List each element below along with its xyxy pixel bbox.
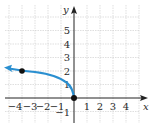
x-tick: 1: [84, 101, 90, 112]
point-origin: [71, 95, 77, 101]
y-axis-label: y: [62, 4, 69, 15]
y-tick: 5: [64, 25, 70, 36]
x-tick: −2: [36, 101, 51, 112]
chart: x y −4 −3 −2 −1 1 2 3 4 5 4 3 2 1 −1: [0, 0, 150, 127]
x-tick: 2: [97, 101, 103, 112]
y-tick: 4: [64, 39, 70, 50]
point-neg4-2: [19, 68, 25, 74]
y-tick: 2: [64, 66, 70, 77]
y-tick: −1: [55, 107, 70, 118]
x-tick: −4: [8, 101, 23, 112]
x-tick: 4: [123, 101, 129, 112]
x-axis-label: x: [143, 101, 149, 112]
y-tick: 3: [64, 52, 70, 63]
x-tick: 3: [110, 101, 116, 112]
